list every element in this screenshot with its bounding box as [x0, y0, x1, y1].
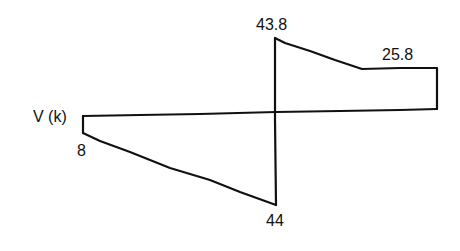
right-plateau-value: 25.8 [382, 46, 413, 63]
negative-shear-line [83, 133, 276, 205]
shear-diagram: V (k) 8 44 43.8 25.8 [0, 0, 460, 251]
left-end-value: 8 [77, 142, 86, 159]
positive-peak-value: 43.8 [256, 16, 287, 33]
shear-jump-vertical [275, 38, 276, 205]
baseline [83, 109, 437, 116]
negative-peak-value: 44 [266, 212, 284, 229]
axis-label: V (k) [33, 108, 67, 125]
